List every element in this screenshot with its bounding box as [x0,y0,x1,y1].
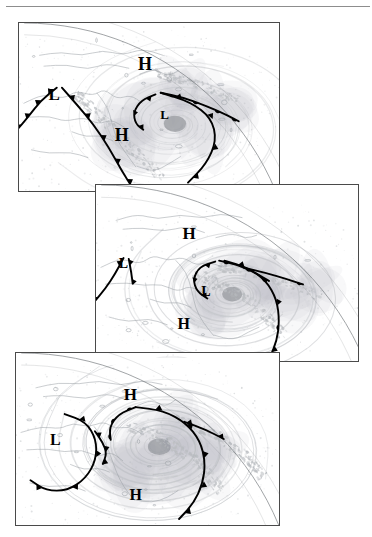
high-pressure-label: H [182,224,195,243]
satellite-panel-3: HLH [15,352,280,526]
low-pressure-label: L [201,284,210,299]
high-pressure-label: H [138,54,152,74]
satellite-panel-1: HLLH [18,22,280,192]
high-pressure-label: H [115,125,129,145]
top-rule [6,6,370,7]
high-pressure-label: H [178,315,191,332]
low-pressure-label: L [119,256,128,271]
high-pressure-label: H [124,385,137,404]
satellite-panel-2: HLLH [95,184,359,362]
low-pressure-label: L [48,85,59,104]
figure-canvas: HLLHHLLHHLH [0,0,372,537]
high-pressure-label: H [129,486,142,503]
low-pressure-label: L [160,107,169,122]
low-pressure-label: L [50,431,61,448]
